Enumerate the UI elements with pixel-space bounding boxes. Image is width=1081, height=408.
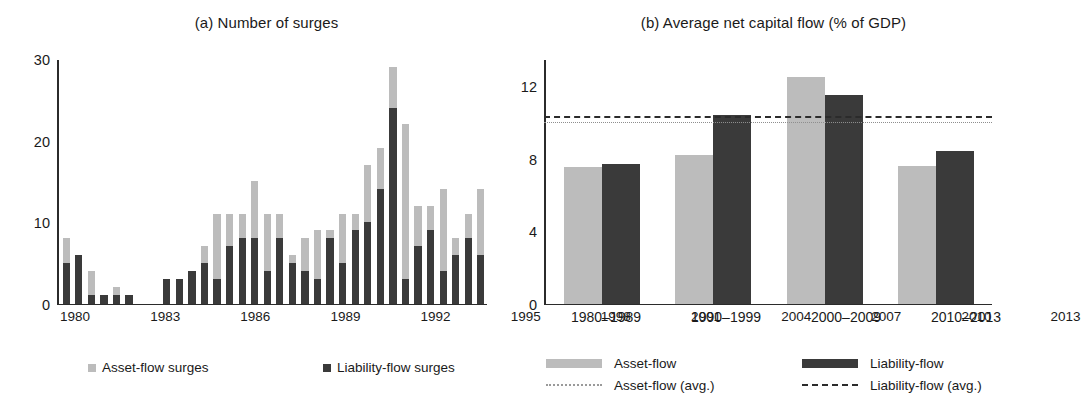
bar-column bbox=[110, 60, 123, 304]
legend-swatch-icon bbox=[546, 359, 602, 368]
x-tick-label: 2013 bbox=[1051, 309, 1081, 329]
bar-segment-asset-flow bbox=[389, 67, 396, 108]
legend-item-liability-flow-surges: Liability-flow surges bbox=[303, 360, 455, 375]
bar-segment-asset-flow bbox=[251, 181, 258, 238]
bar-liability-flow bbox=[713, 115, 751, 304]
bar-segment-liability-flow bbox=[440, 271, 447, 304]
bar-group bbox=[881, 60, 993, 304]
bar-group bbox=[546, 60, 658, 304]
y-tick-label: 0 bbox=[529, 297, 537, 313]
bar-segment-asset-flow bbox=[377, 148, 384, 189]
panel-b-plot-area: 04812 bbox=[544, 60, 992, 305]
y-tick-label: 8 bbox=[529, 152, 537, 168]
x-tick-label: 1983 bbox=[150, 309, 180, 329]
bar-column bbox=[336, 60, 349, 304]
stacked-bar bbox=[201, 60, 208, 304]
stacked-bar bbox=[163, 60, 170, 304]
bar-segment-liability-flow bbox=[188, 271, 195, 304]
stacked-bar bbox=[213, 60, 220, 304]
legend-label: Liability-flow (avg.) bbox=[870, 378, 982, 393]
bar-segment-asset-flow bbox=[213, 214, 220, 279]
bar-segment-liability-flow bbox=[402, 279, 409, 304]
bar-segment-liability-flow bbox=[113, 295, 120, 303]
stacked-bar bbox=[113, 60, 120, 304]
stacked-bar bbox=[226, 60, 233, 304]
y-tick-label: 12 bbox=[521, 79, 537, 95]
bar-segment-liability-flow bbox=[377, 189, 384, 303]
bar-segment-asset-flow bbox=[452, 238, 459, 254]
bar-segment-liability-flow bbox=[264, 271, 271, 304]
bar-segment-liability-flow bbox=[352, 230, 359, 304]
bar-segment-asset-flow bbox=[289, 255, 296, 263]
bar-group bbox=[769, 60, 881, 304]
bar-column bbox=[60, 60, 73, 304]
stacked-bar bbox=[402, 60, 409, 304]
legend-swatch-icon bbox=[88, 364, 96, 372]
bar-segment-liability-flow bbox=[88, 295, 95, 303]
bar-segment-asset-flow bbox=[63, 238, 70, 263]
stacked-bar bbox=[477, 60, 484, 304]
legend-label: Asset-flow surges bbox=[102, 360, 209, 375]
stacked-bar bbox=[314, 60, 321, 304]
bar-segment-liability-flow bbox=[326, 238, 333, 303]
panel-a-plot-area: 0102030 bbox=[57, 60, 487, 305]
stacked-bar bbox=[63, 60, 70, 304]
bar-column bbox=[424, 60, 437, 304]
stacked-bar bbox=[276, 60, 283, 304]
bar-segment-asset-flow bbox=[477, 189, 484, 254]
panel-a-title: (a) Number of surges bbox=[0, 14, 523, 31]
panel-b-bars bbox=[546, 60, 992, 304]
stacked-bar bbox=[377, 60, 384, 304]
x-tick-label: 1992 bbox=[421, 309, 451, 329]
panel-b-title: (b) Average net capital flow (% of GDP) bbox=[513, 14, 1030, 31]
bar-segment-liability-flow bbox=[289, 263, 296, 304]
bar-column bbox=[73, 60, 86, 304]
dotted-line-icon bbox=[546, 384, 602, 386]
bar-column bbox=[324, 60, 337, 304]
bar-column bbox=[236, 60, 249, 304]
bar-column bbox=[387, 60, 400, 304]
bar-column bbox=[374, 60, 387, 304]
bar-column bbox=[173, 60, 186, 304]
legend-item-liability-flow: Liability-flow bbox=[784, 356, 944, 371]
bar-column bbox=[261, 60, 274, 304]
stacked-bar bbox=[364, 60, 371, 304]
bar-segment-liability-flow bbox=[414, 246, 421, 303]
legend-swatch-icon bbox=[802, 359, 858, 368]
bar-segment-liability-flow bbox=[226, 246, 233, 303]
bar-segment-liability-flow bbox=[314, 279, 321, 304]
bar-segment-asset-flow bbox=[239, 214, 246, 239]
bar-segment-asset-flow bbox=[465, 214, 472, 239]
bar-segment-liability-flow bbox=[75, 255, 82, 304]
stacked-bar bbox=[389, 60, 396, 304]
bar-segment-liability-flow bbox=[477, 255, 484, 304]
bar-segment-asset-flow bbox=[301, 238, 308, 271]
bar-column bbox=[123, 60, 136, 304]
legend-label: Asset-flow (avg.) bbox=[614, 378, 715, 393]
bar-segment-liability-flow bbox=[213, 279, 220, 304]
bar-column bbox=[311, 60, 324, 304]
bar-column bbox=[248, 60, 261, 304]
bar-column bbox=[198, 60, 211, 304]
bar-segment-asset-flow bbox=[276, 214, 283, 239]
y-tick-label: 30 bbox=[34, 52, 50, 68]
bar-segment-asset-flow bbox=[201, 246, 208, 262]
bar-column bbox=[274, 60, 287, 304]
bar-segment-asset-flow bbox=[352, 214, 359, 230]
legend-item-asset-flow: Asset-flow bbox=[546, 356, 784, 371]
bar-segment-asset-flow bbox=[326, 230, 333, 238]
stacked-bar bbox=[239, 60, 246, 304]
bar-segment-asset-flow bbox=[440, 189, 447, 271]
x-tick-label: 1980 bbox=[60, 309, 90, 329]
stacked-bar bbox=[151, 60, 158, 304]
stacked-bar bbox=[88, 60, 95, 304]
stacked-bar bbox=[414, 60, 421, 304]
legend-label: Liability-flow bbox=[870, 356, 944, 371]
bar-segment-liability-flow bbox=[452, 255, 459, 304]
bar-segment-asset-flow bbox=[113, 287, 120, 295]
bar-segment-liability-flow bbox=[301, 271, 308, 304]
bar-column bbox=[437, 60, 450, 304]
stacked-bar bbox=[301, 60, 308, 304]
stacked-bar bbox=[176, 60, 183, 304]
y-tick-label: 0 bbox=[42, 297, 50, 313]
